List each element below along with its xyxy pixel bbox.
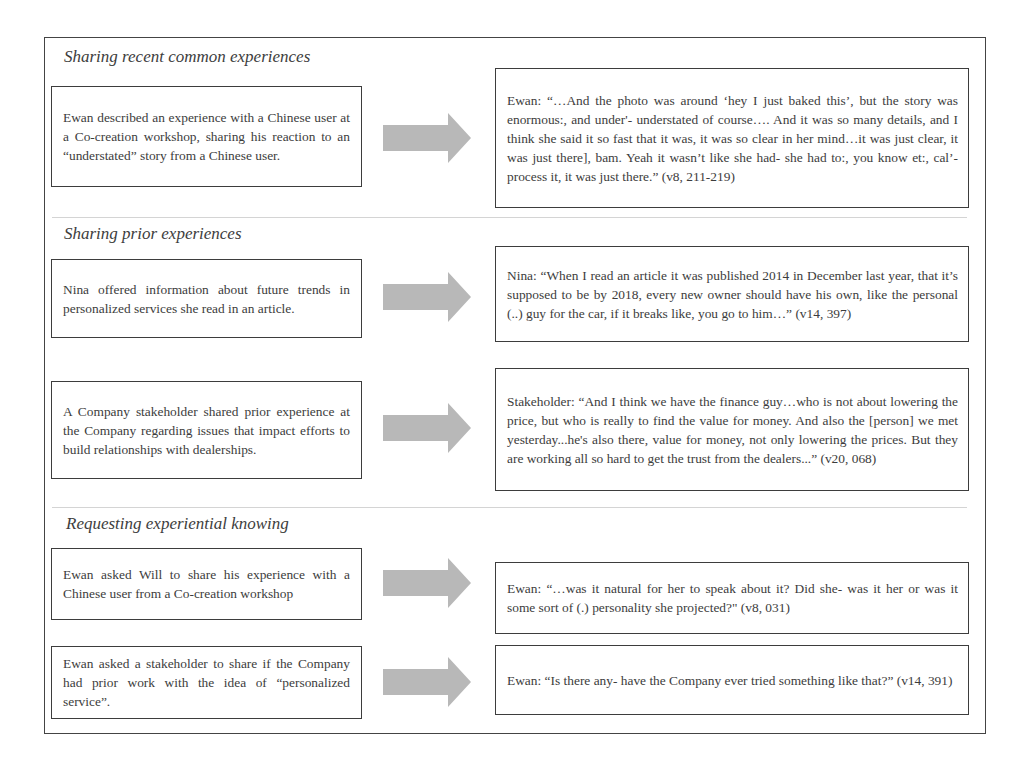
quote-text: Ewan: “…And the photo was around ‘hey I … (496, 91, 968, 186)
description-box: Ewan described an experience with a Chin… (51, 86, 362, 187)
right-arrow-icon (383, 113, 471, 163)
description-text: Nina offered information about future tr… (52, 280, 361, 318)
right-arrow-icon (383, 657, 471, 707)
description-box: Ewan asked Will to share his experience … (51, 548, 362, 620)
description-box: Nina offered information about future tr… (51, 259, 362, 338)
quote-text: Stakeholder: “And I think we have the fi… (496, 392, 968, 468)
description-text: Ewan described an experience with a Chin… (52, 108, 361, 165)
description-text: A Company stakeholder shared prior exper… (52, 402, 361, 459)
quote-box: Ewan: “…And the photo was around ‘hey I … (495, 68, 969, 208)
quote-box: Nina: “When I read an article it was pub… (495, 246, 969, 342)
section-title-requesting: Requesting experiential knowing (66, 514, 289, 534)
right-arrow-icon (383, 272, 471, 322)
right-arrow-icon (383, 403, 471, 453)
section-divider (52, 507, 967, 508)
section-title-recent-common: Sharing recent common experiences (64, 47, 310, 67)
quote-text: Nina: “When I read an article it was pub… (496, 266, 968, 323)
section-divider (52, 217, 967, 218)
quote-text: Ewan: “…was it natural for her to speak … (496, 579, 968, 617)
section-title-prior: Sharing prior experiences (64, 224, 242, 244)
description-text: Ewan asked a stakeholder to share if the… (52, 654, 361, 711)
quote-box: Ewan: “Is there any- have the Company ev… (495, 645, 969, 715)
quote-box: Stakeholder: “And I think we have the fi… (495, 368, 969, 491)
description-box: A Company stakeholder shared prior exper… (51, 381, 362, 479)
right-arrow-icon (383, 558, 471, 608)
description-box: Ewan asked a stakeholder to share if the… (51, 646, 362, 719)
quote-text: Ewan: “Is there any- have the Company ev… (496, 671, 962, 690)
description-text: Ewan asked Will to share his experience … (52, 565, 361, 603)
quote-box: Ewan: “…was it natural for her to speak … (495, 562, 969, 634)
